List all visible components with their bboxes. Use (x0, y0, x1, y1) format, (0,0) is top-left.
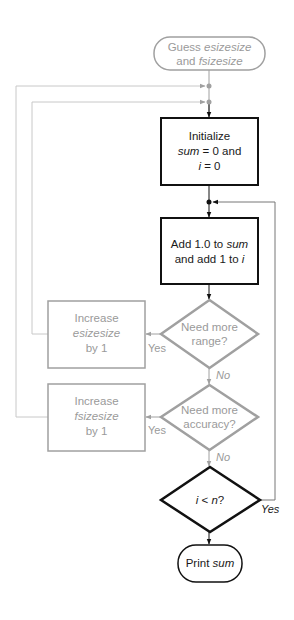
print-sum-text: sum (213, 557, 235, 569)
range-line1-text: Need more (181, 321, 238, 333)
start-esize-text: esizesize (204, 41, 251, 53)
svg-text:and fsizesize: and fsizesize (176, 55, 243, 67)
accuracy-no-label: No (216, 451, 230, 463)
start-terminal: Guess esizesize and fsizesize (154, 37, 265, 70)
svg-text:and add 1 to i: and add 1 to i (175, 253, 245, 265)
esize-line2-text: esizesize (73, 327, 120, 339)
initialize-box: Initialize sum = 0 and i = 0 (161, 118, 258, 185)
svg-text:Guess esizesize: Guess esizesize (168, 41, 252, 53)
accuracy-decision: Need more accuracy? (161, 385, 258, 450)
esize-line3-text: by 1 (86, 342, 108, 354)
junction-dot-inner (207, 100, 212, 105)
accuracy-yes-label: Yes (148, 424, 166, 436)
init-line3-text: = 0 (201, 160, 221, 172)
fsize-line2-text: fsizesize (74, 410, 118, 422)
svg-text:i < n?: i < n? (196, 494, 224, 506)
increase-fsize-box: Increase fsizesize by 1 (48, 384, 145, 451)
fsize-line3-text: by 1 (86, 425, 108, 437)
increase-esize-box: Increase esizesize by 1 (48, 301, 145, 368)
range-decision: Need more range? (161, 300, 258, 368)
add-line2-text: and add 1 to (175, 253, 242, 265)
start-fsize-text: fsizesize (199, 55, 243, 67)
esize-line1-text: Increase (74, 312, 118, 324)
loop-lt-text: < (198, 494, 211, 506)
start-line1-text: Guess (168, 41, 204, 53)
accuracy-line2-text: accuracy? (183, 418, 235, 430)
print-terminal: Print sum (178, 545, 242, 582)
init-line1-text: Initialize (189, 130, 231, 142)
range-no-label: No (216, 369, 230, 381)
junction-dot-loop (207, 200, 212, 205)
init-sum-text: sum (178, 145, 200, 157)
loop-yes-label: Yes (261, 503, 280, 515)
start-line2-text: and (176, 55, 198, 67)
add-i-text: i (242, 253, 245, 265)
svg-text:Print sum: Print sum (186, 557, 235, 569)
fsize-line1-text: Increase (74, 395, 118, 407)
add-sum-text: sum (226, 238, 248, 250)
print-plain-text: Print (186, 557, 213, 569)
svg-text:sum = 0 and: sum = 0 and (178, 145, 242, 157)
loop-q-text: ? (218, 494, 224, 506)
loop-decision: i < n? (161, 467, 260, 532)
add-box: Add 1.0 to sum and add 1 to i (161, 218, 258, 284)
init-line2-text: = 0 and (199, 145, 241, 157)
flowchart: Guess esizesize and fsizesize Initialize… (0, 0, 294, 620)
range-line2-text: range? (192, 335, 228, 347)
add-line1-text: Add 1.0 to (171, 238, 227, 250)
svg-text:Add 1.0 to sum: Add 1.0 to sum (171, 238, 249, 250)
svg-text:i = 0: i = 0 (198, 160, 220, 172)
range-yes-label: Yes (148, 342, 166, 354)
junction-dot-outer (207, 84, 212, 89)
accuracy-line1-text: Need more (181, 404, 238, 416)
